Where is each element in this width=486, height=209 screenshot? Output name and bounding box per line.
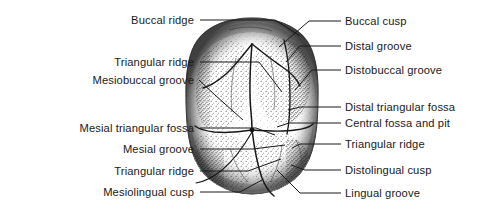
label-lingual-groove: Lingual groove	[345, 187, 420, 199]
label-mesiolingual-cusp: Mesiolingual cusp	[103, 186, 194, 198]
label-distal-triangular-fossa: Distal triangular fossa	[345, 101, 456, 113]
label-triangular-ridge-distal: Triangular ridge	[345, 138, 425, 150]
label-central-fossa-and-pit: Central fossa and pit	[345, 117, 451, 129]
label-distolingual-cusp: Distolingual cusp	[345, 164, 431, 176]
diagram-canvas: Buccal ridge Triangular ridge Mesiobucca…	[0, 0, 486, 209]
tooth-anatomy-diagram: Buccal ridge Triangular ridge Mesiobucca…	[0, 0, 486, 209]
label-mesial-triangular-fossa: Mesial triangular fossa	[79, 122, 194, 134]
label-buccal-ridge: Buccal ridge	[131, 14, 194, 26]
label-buccal-cusp: Buccal cusp	[345, 15, 407, 27]
labels-left-column: Buccal ridge Triangular ridge Mesiobucca…	[79, 14, 194, 198]
label-distal-groove: Distal groove	[345, 40, 412, 52]
label-triangular-ridge-mesial: Triangular ridge	[114, 165, 194, 177]
label-triangular-ridge-buccal: Triangular ridge	[114, 56, 194, 68]
label-mesial-groove: Mesial groove	[123, 143, 194, 155]
label-distobuccal-groove: Distobuccal groove	[345, 64, 442, 76]
labels-right-column: Buccal cusp Distal groove Distobuccal gr…	[345, 15, 456, 199]
label-mesiobuccal-groove: Mesiobuccal groove	[92, 74, 194, 86]
